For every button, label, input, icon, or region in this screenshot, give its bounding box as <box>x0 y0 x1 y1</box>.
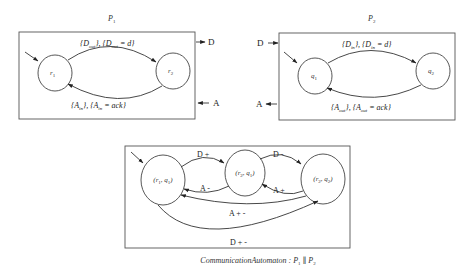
composite-state-r2q2: (r2, q2) <box>301 154 345 204</box>
p1-port-d-label: D <box>208 37 215 47</box>
p2-state-q2: q2 <box>416 53 450 89</box>
p2-title: P2 <box>367 14 376 24</box>
composite-edge-dplus-label: D + <box>197 150 210 159</box>
p2-port-d-label: D <box>257 38 264 48</box>
automaton-composite: (r1, q1) (r2, q1) (r2, q2) D + A - D - A… <box>125 146 350 266</box>
composite-edge-dplusminus-label: D + - <box>230 238 247 247</box>
p2-edge-q2-q1-label: {Aout}, {Aout = ack} <box>331 103 392 113</box>
svg-text:(r1, q1): (r1, q1) <box>153 176 173 185</box>
composite-edge-aplus-label: A + <box>273 186 285 195</box>
p1-port-a-label: A <box>213 98 220 108</box>
composite-state-r2q1: (r2, q1) <box>225 150 265 196</box>
composite-edge-aplusminus-label: A + - <box>229 209 246 218</box>
automaton-p2: P2 D A q1 q2 {Din}, {Din = d} {Aout}, {A… <box>256 14 455 120</box>
p1-edge-r2-r1-label: {Ain}, {Ain = ack} <box>71 101 127 111</box>
diagram-canvas: P1 r1 r2 {Dout}, {Dout = d} {Ain}, {Ain … <box>0 0 473 272</box>
p2-initial-arrow <box>284 52 297 63</box>
p2-port-a-label: A <box>256 99 263 109</box>
composite-edge-dminus-label: D - <box>273 150 284 159</box>
svg-text:(r2, q2): (r2, q2) <box>313 175 333 184</box>
p1-edge-r1-r2 <box>68 46 156 62</box>
p1-state-r1: r1 <box>38 55 72 91</box>
p1-state-r2: r2 <box>156 53 190 89</box>
p2-edge-q1-q2-label: {Din}, {Din = d} <box>342 40 392 50</box>
p1-edge-r1-r2-label: {Dout}, {Dout = d} <box>80 39 135 49</box>
p1-edge-r2-r1 <box>68 84 162 99</box>
p2-edge-q1-q2 <box>328 51 416 64</box>
composite-edge-aminus-label: A - <box>200 184 210 193</box>
composite-initial-arrow <box>131 152 143 163</box>
p1-title: P1 <box>107 14 116 24</box>
p1-initial-arrow <box>25 52 38 61</box>
p2-edge-q2-q1 <box>327 85 421 97</box>
p2-state-q1: q1 <box>298 58 332 94</box>
composite-state-r1q1: (r1, q1) <box>141 155 185 205</box>
automaton-p1: P1 r1 r2 {Dout}, {Dout = d} {Ain}, {Ain … <box>19 14 220 119</box>
svg-text:(r2, q1): (r2, q1) <box>235 169 255 178</box>
composite-caption: CommunicationAutomaton : P1 ∥ P2 <box>200 256 316 266</box>
